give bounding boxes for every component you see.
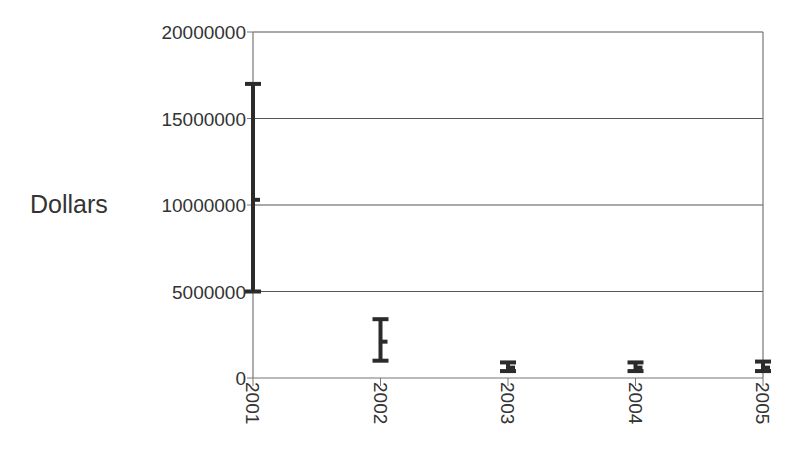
x-tick-label: 2004 xyxy=(625,382,646,425)
y-tick-label: 20000000 xyxy=(161,22,246,43)
x-tick-label: 2003 xyxy=(497,382,518,424)
x-tick-label: 2005 xyxy=(752,382,773,424)
x-tick-label: 2002 xyxy=(370,382,391,424)
x-tick-label: 2001 xyxy=(242,382,263,424)
y-tick-label: 5000000 xyxy=(172,282,246,303)
y-tick-label: 10000000 xyxy=(161,195,246,216)
error-bar-chart: 0500000010000000150000002000000020012002… xyxy=(0,0,798,461)
y-tick-label: 15000000 xyxy=(161,109,246,130)
